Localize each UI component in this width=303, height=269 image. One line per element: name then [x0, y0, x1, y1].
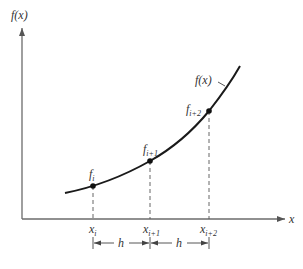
h-label-2: h	[176, 236, 182, 250]
x-axis-label: x	[288, 212, 295, 226]
label-xi2: xi+2	[199, 222, 217, 238]
label-xi1: xi+1	[142, 222, 160, 238]
label-fi1: fi+1	[143, 142, 158, 158]
curve-label-pointer	[218, 82, 225, 86]
label-xi: xi	[88, 222, 97, 238]
h-label-1: h	[118, 236, 124, 250]
point-fi	[90, 183, 96, 189]
label-fi: fi	[89, 167, 95, 183]
y-axis-label: f(x)	[11, 8, 28, 22]
point-fi2	[206, 108, 212, 114]
label-fi2: fi+2	[186, 102, 201, 118]
diagram-canvas: f(x) x f(x) fi fi+1 fi+2 xi xi+1 xi+2 h …	[0, 0, 303, 269]
curve-label: f(x)	[195, 73, 212, 87]
point-fi1	[147, 158, 153, 164]
